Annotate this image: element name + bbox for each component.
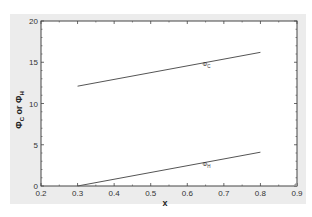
x-tick-label: 0.7	[218, 189, 230, 198]
y-tick-label: 5	[34, 141, 39, 150]
x-tick-label: 0.8	[255, 189, 267, 198]
x-axis-label: x	[162, 198, 167, 208]
line-chart: 0.20.30.40.50.60.70.80.905101520ΦCΦHxΦC …	[0, 0, 312, 217]
x-tick-label: 0.3	[72, 189, 84, 198]
x-tick-label: 0.4	[109, 189, 121, 198]
y-tick-label: 15	[29, 58, 38, 67]
y-tick-label: 0	[34, 182, 39, 191]
x-tick-label: 0.6	[182, 189, 194, 198]
plot-area	[41, 21, 297, 186]
y-axis-label: ΦC or ΦH	[14, 91, 25, 128]
y-tick-label: 20	[29, 17, 38, 26]
chart-figure: 0.20.30.40.50.60.70.80.905101520ΦCΦHxΦC …	[0, 0, 312, 217]
x-tick-label: 0.9	[291, 189, 303, 198]
x-tick-label: 0.5	[145, 189, 157, 198]
y-tick-label: 10	[29, 100, 38, 109]
